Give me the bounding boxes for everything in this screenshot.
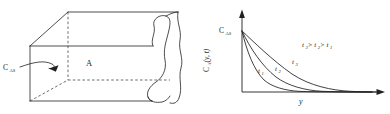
figure-root: A C AS C: [0, 0, 390, 114]
box-torn-back-contour: [170, 12, 182, 103]
y-axis-title-args: (y, t): [202, 48, 211, 62]
ineq-t-c: t: [326, 41, 329, 49]
slab-diagram-panel: A C AS: [3, 12, 182, 103]
ineq-sub-1: 1: [330, 45, 332, 50]
concentration-profile-panel: C AS C A (y, t) y t 3 > t 2 > t 1: [202, 10, 385, 107]
curve-label-t3-subscript: 3: [295, 62, 298, 67]
curve-label-t2: t 2: [275, 65, 281, 74]
ineq-gt-1: >: [308, 41, 312, 49]
ineq-t-a: t: [302, 41, 305, 49]
figure-svg: A C AS C: [0, 0, 390, 114]
curve-label-t1: t 1: [258, 67, 264, 76]
curve-t2: [242, 31, 372, 92]
box-hidden-bottom-slant-edge: [30, 80, 68, 101]
chart-y-axis-title: C A (y, t): [202, 48, 212, 72]
chart-c-as-base: C: [219, 26, 224, 35]
surface-concentration-callout: C AS: [3, 62, 59, 74]
chart-c-as-subscript: AS: [225, 31, 231, 36]
box-torn-top-connector: [166, 12, 178, 16]
chart-x-axis-arrowhead: [377, 89, 386, 95]
box-torn-front-contour: [147, 16, 170, 103]
ineq-t-b: t: [314, 41, 317, 49]
box-torn-front-bottom-connector: [148, 97, 152, 101]
chart-y-intercept-label: C AS: [219, 26, 232, 36]
curve-label-t3: t 3: [292, 58, 298, 67]
curve-label-t2-subscript: 2: [278, 69, 281, 74]
c-as-label-base: C: [3, 63, 8, 72]
species-label-A: A: [86, 58, 93, 68]
chart-x-axis-title: y: [298, 97, 303, 106]
chart-y-axis-arrowhead: [239, 10, 245, 19]
c-as-label-subscript: AS: [9, 68, 15, 73]
box-top-left-slant-edge: [30, 12, 68, 46]
ineq-gt-2: >: [320, 41, 324, 49]
y-axis-title-base: C: [202, 67, 211, 72]
curve-label-t1-subscript: 1: [261, 71, 263, 76]
chart-inequality-annotation: t 3 > t 2 > t 1: [302, 41, 332, 50]
curve-t1: [242, 31, 372, 92]
callout-leader-line: [20, 62, 54, 69]
